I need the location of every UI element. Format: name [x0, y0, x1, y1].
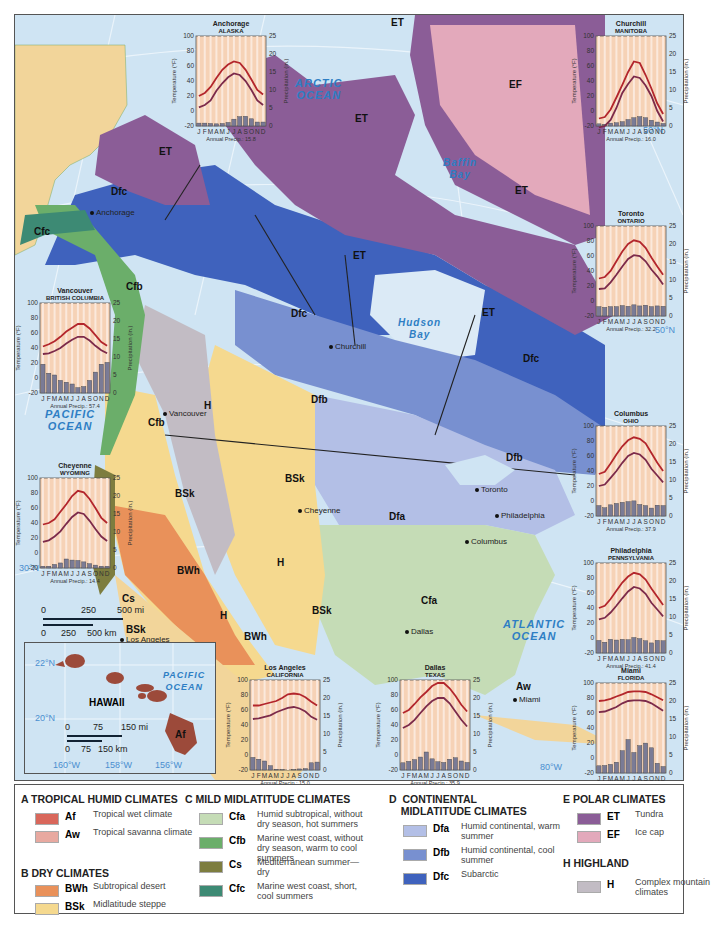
temp-tick: 20: [241, 736, 249, 743]
precip-tick: 0: [669, 512, 673, 519]
month-label: J: [632, 655, 635, 662]
month-label: F: [603, 775, 607, 782]
legend-code: EF: [607, 829, 620, 840]
precip-bar: [643, 506, 647, 516]
month-label: F: [47, 570, 51, 577]
precip-bar: [52, 564, 56, 568]
legend-swatch: [577, 881, 601, 893]
temp-tick: 0: [394, 751, 398, 758]
precip-bar: [99, 566, 103, 568]
precip-bar: [608, 764, 612, 773]
legend-desc: Ice cap: [635, 827, 715, 837]
precip-tick: 15: [669, 258, 677, 265]
month-label: A: [638, 775, 643, 782]
chart-region: CALIFORNIA: [267, 672, 305, 678]
precip-tick: 5: [113, 546, 117, 553]
precip-tick: 20: [323, 694, 331, 701]
region-label: Dfa: [389, 511, 405, 522]
chart-city: Miami: [621, 667, 641, 674]
scale-mi-500: 500 mi: [117, 605, 144, 615]
precip-bar: [70, 560, 74, 568]
annual-precip: Annual Precip.: 15.8: [206, 136, 256, 142]
temp-tick: -20: [585, 512, 595, 519]
scale-bar: 0 250 500 mi 0 250 500 km: [41, 605, 161, 645]
legend-code: Af: [65, 811, 76, 822]
precip-bar: [99, 364, 103, 393]
precip-bar: [459, 761, 463, 770]
climograph-vancouver: VancouverBRITISH COLUMBIA100806040200-20…: [12, 285, 138, 413]
precip-tick: 20: [269, 50, 277, 57]
annual-precip: Annual Precip.: 57.4: [50, 403, 100, 409]
chart-region: BRITISH COLUMBIA: [46, 295, 105, 301]
precip-bar: [255, 122, 259, 126]
legend-code: BWh: [65, 883, 88, 894]
precip-tick: 15: [669, 715, 677, 722]
precip-tick: 20: [669, 240, 677, 247]
month-label: J: [597, 128, 600, 135]
legend-item-h: HComplex mountain climates: [577, 877, 629, 901]
precip-bar: [257, 759, 261, 770]
region-label: Dfc: [523, 353, 539, 364]
precip-bar: [603, 765, 607, 773]
precip-bar: [447, 759, 451, 770]
legend-swatch: [199, 837, 223, 849]
precip-axis-label: Precipitation (in.): [283, 58, 289, 103]
hawaii-scale: 75: [81, 744, 91, 754]
legend-item-dfa: DfaHumid continental, warm summer: [403, 821, 527, 845]
precip-bar: [661, 641, 665, 653]
temp-tick: 20: [31, 359, 39, 366]
precip-tick: 15: [669, 68, 677, 75]
legend-code: Cfa: [229, 811, 245, 822]
month-label: A: [58, 570, 63, 577]
temp-tick: 100: [183, 32, 194, 39]
precip-axis-label: Precipitation (in.): [683, 58, 689, 103]
temp-tick: 20: [391, 736, 399, 743]
legend-code: Aw: [65, 829, 80, 840]
precip-bar: [649, 120, 653, 126]
legend-code: ET: [607, 811, 620, 822]
month-label: A: [82, 395, 87, 402]
temp-tick: -20: [185, 122, 195, 129]
month-label: A: [292, 772, 297, 779]
precip-tick: 25: [669, 559, 677, 566]
month-label: M: [424, 772, 429, 779]
precip-tick: 5: [113, 371, 117, 378]
month-label: J: [597, 318, 600, 325]
precip-bar: [614, 640, 618, 653]
region-label: Cfc: [34, 226, 50, 237]
precip-bar: [638, 117, 642, 126]
month-label: J: [626, 318, 629, 325]
legend-code: Cs: [229, 859, 242, 870]
month-label: J: [626, 775, 629, 782]
month-label: S: [447, 772, 452, 779]
legend-group-polar: E POLAR CLIMATES ETTundraEFIce cap: [563, 793, 665, 845]
month-label: A: [638, 655, 643, 662]
precip-tick: 10: [473, 730, 481, 737]
chart-region: ALASKA: [219, 28, 245, 34]
temp-tick: 20: [587, 482, 595, 489]
legend: A TROPICAL HUMID CLIMATES AfTropical wet…: [14, 784, 684, 914]
precip-bar: [243, 116, 247, 126]
precip-bar: [620, 639, 624, 653]
precip-bar: [105, 362, 109, 393]
month-label: O: [649, 318, 654, 325]
legend-group-highland: H HIGHLAND HComplex mountain climates: [563, 857, 629, 901]
precip-bar: [105, 566, 109, 568]
precip-tick: 5: [669, 294, 673, 301]
temp-axis-label: Temperature (°F): [171, 58, 177, 103]
chart-region: ONTARIO: [617, 218, 645, 224]
temp-tick: 20: [587, 619, 595, 626]
month-label: N: [255, 128, 260, 135]
annual-precip: Annual Precip.: 32.2: [606, 326, 656, 332]
temp-axis-label: Temperature (°F): [571, 448, 577, 493]
region-label: ET: [159, 146, 172, 157]
month-label: M: [412, 772, 417, 779]
month-label: O: [649, 518, 654, 525]
month-label: S: [297, 772, 302, 779]
precip-bar: [76, 560, 80, 568]
month-label: O: [453, 772, 458, 779]
precip-bar: [274, 769, 278, 770]
precip-tick: 15: [269, 68, 277, 75]
legend-item-cfc: CfcMarine west coast, short, cool summer…: [199, 881, 350, 905]
month-label: A: [268, 772, 273, 779]
